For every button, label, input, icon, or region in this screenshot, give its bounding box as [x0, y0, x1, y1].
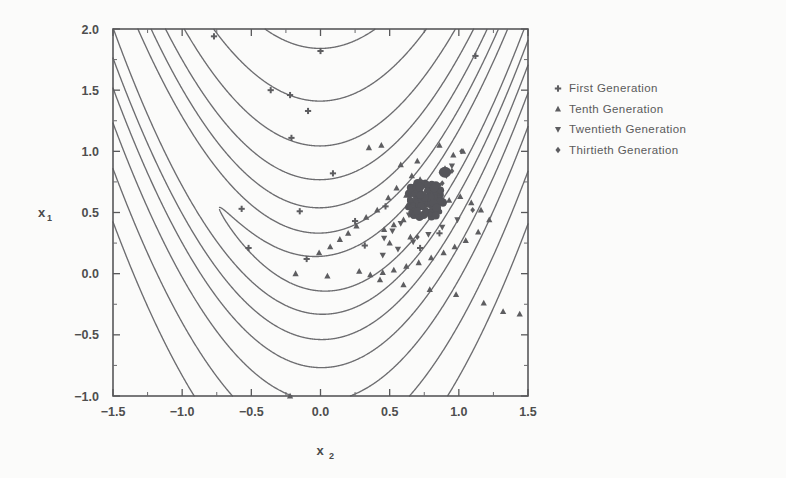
legend-item-3[interactable]: Thirtieth Generation: [555, 144, 678, 156]
y-tick-label: 1.5: [82, 84, 99, 98]
blob-dot: [430, 184, 438, 192]
y-axis-title-text: x: [38, 205, 46, 220]
legend-label: Tenth Generation: [569, 103, 664, 115]
y-tick-label: −0.5: [74, 328, 99, 342]
blob-dot: [439, 167, 451, 178]
blob-dot: [415, 183, 424, 192]
blob-dot: [438, 188, 443, 193]
blob-dot: [411, 192, 416, 197]
y-tick-label: −1.0: [74, 390, 99, 404]
legend-item-1[interactable]: Tenth Generation: [555, 103, 664, 115]
blob-dot: [407, 197, 413, 203]
x-axis-title-text: x: [316, 443, 324, 458]
x-tick-label: 0.0: [312, 405, 329, 419]
legend-item-2[interactable]: Twentieth Generation: [555, 123, 686, 135]
blob-dot: [417, 192, 424, 199]
blob-dot: [408, 210, 413, 215]
y-tick-label: 1.0: [82, 145, 99, 159]
blob-dot: [413, 207, 421, 215]
y-tick-label: 0.0: [82, 267, 99, 281]
legend-item-0[interactable]: First Generation: [555, 82, 658, 94]
x-tick-label: 0.5: [381, 405, 398, 419]
blob-dot: [433, 204, 441, 212]
y-tick-label: 0.5: [82, 206, 99, 220]
blob-dot: [411, 202, 416, 207]
x-tick-label: −1.5: [101, 405, 126, 419]
x-axis-title-subscript: 2: [329, 451, 334, 461]
legend-label: First Generation: [569, 82, 658, 94]
legend-label: Thirtieth Generation: [569, 144, 679, 156]
x-tick-label: 1.5: [519, 405, 536, 419]
x-tick-label: −0.5: [239, 405, 264, 419]
legend-label: Twentieth Generation: [569, 123, 686, 135]
x-tick-label: −1.0: [170, 405, 195, 419]
blob-dot: [424, 187, 430, 193]
x-tick-label: 1.0: [450, 405, 467, 419]
figure-container: −1.5−1.0−0.50.00.51.01.5 −1.0−0.50.00.51…: [0, 0, 786, 478]
y-tick-label: 2.0: [82, 23, 99, 37]
scatter-contour-plot: −1.5−1.0−0.50.00.51.01.5 −1.0−0.50.00.51…: [0, 0, 786, 478]
blob-dot: [432, 212, 440, 220]
y-axis-title-subscript: 1: [47, 213, 52, 223]
